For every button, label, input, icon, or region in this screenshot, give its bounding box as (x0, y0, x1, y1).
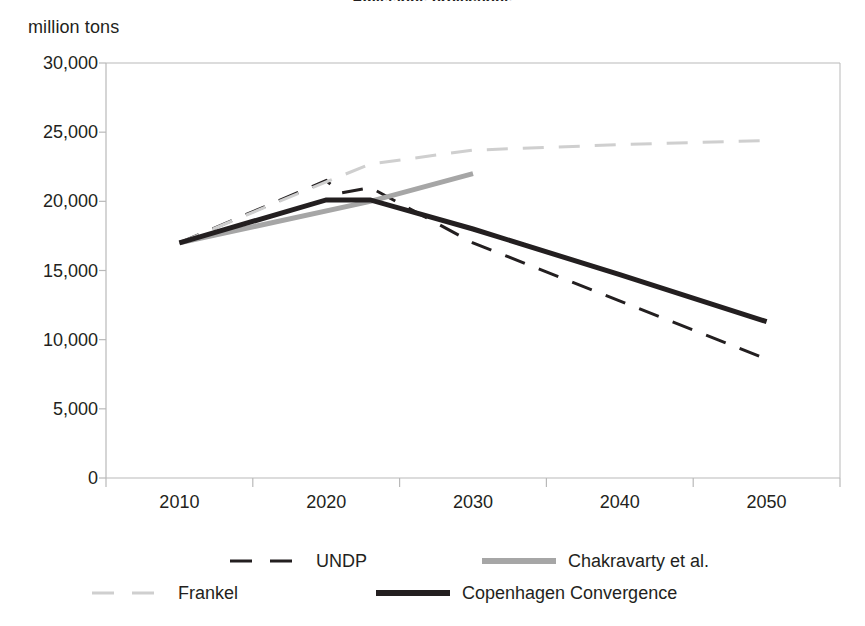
x-tick-label: 2020 (306, 492, 346, 513)
legend-item-copenhagen-convergence[interactable]: Copenhagen Convergence (374, 578, 677, 608)
legend-label-chakravarty: Chakravarty et al. (568, 551, 709, 572)
legend-label-undp: UNDP (316, 551, 367, 572)
legend-row-2: Frankel Copenhagen Convergence (188, 578, 788, 608)
legend-swatch-solid-dark-icon (374, 587, 452, 599)
chart-legend: UNDP Chakravarty et al. Frankel Copen (188, 546, 788, 616)
x-tick-label: 2050 (747, 492, 787, 513)
legend-label-copenhagen: Copenhagen Convergence (462, 583, 677, 604)
x-tick-label: 2040 (600, 492, 640, 513)
legend-item-frankel[interactable]: Frankel (90, 578, 238, 608)
legend-swatch-dashed-dark-icon (228, 555, 306, 567)
x-tick-label: 2030 (453, 492, 493, 513)
x-axis-tick-labels: 20102020203020402050 (0, 0, 865, 626)
legend-swatch-solid-gray-icon (480, 555, 558, 567)
x-tick-label: 2010 (159, 492, 199, 513)
emissions-projection-chart: Emissions projections million tons 30,00… (0, 0, 865, 626)
legend-item-chakravarty[interactable]: Chakravarty et al. (480, 546, 709, 576)
legend-swatch-dashed-light-icon (90, 587, 168, 599)
legend-label-frankel: Frankel (178, 583, 238, 604)
legend-item-undp[interactable]: UNDP (228, 546, 367, 576)
legend-row-1: UNDP Chakravarty et al. (188, 546, 788, 576)
